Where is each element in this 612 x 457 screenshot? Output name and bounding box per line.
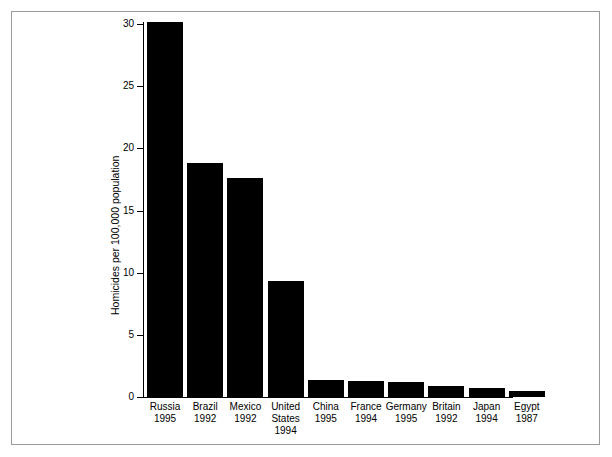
y-axis-tick-label: 5: [107, 330, 134, 340]
figure-frame: [11, 11, 600, 445]
x-axis-tick-label: Egypt1987: [497, 401, 557, 425]
bar: [388, 382, 424, 397]
bar: [147, 22, 183, 397]
y-axis-tick: [137, 273, 143, 274]
x-axis-tick-label-line: 1987: [497, 413, 557, 425]
y-axis-tick-label: 0: [107, 392, 134, 402]
y-axis-tick: [137, 86, 143, 87]
y-axis-tick-label: 30: [107, 19, 134, 29]
x-axis-tick-label-line: Egypt: [497, 401, 557, 413]
bar: [268, 281, 304, 397]
y-axis-tick-label: 10: [107, 268, 134, 278]
y-axis-tick: [137, 211, 143, 212]
y-axis-tick-label: 25: [107, 81, 134, 91]
y-axis-tick-label: 15: [107, 206, 134, 216]
bar: [469, 388, 505, 397]
figure: Homicides per 100,000 population 0510152…: [0, 0, 612, 457]
bar: [308, 380, 344, 397]
bar: [509, 391, 545, 397]
y-axis-tick: [137, 148, 143, 149]
bar: [348, 381, 384, 397]
y-axis-tick-label: 20: [107, 143, 134, 153]
y-axis-tick: [137, 397, 143, 398]
bar: [428, 386, 464, 397]
y-axis-tick: [137, 335, 143, 336]
x-axis-tick-label-line: 1994: [256, 425, 316, 437]
bar: [227, 178, 263, 397]
y-axis-line: [143, 22, 144, 398]
y-axis-tick: [137, 24, 143, 25]
x-axis-line: [143, 397, 513, 398]
bar: [187, 163, 223, 397]
